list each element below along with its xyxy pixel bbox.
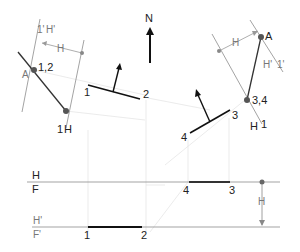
right-fold-bottom-label: H	[250, 120, 258, 132]
top-edge-43-p1: 4	[181, 131, 187, 143]
fold-hfp-lower: F'	[33, 229, 41, 240]
left-point-12-label: 1,2	[38, 61, 53, 73]
front-dim-h-label: H	[258, 196, 265, 207]
top-edge-12-p1: 1	[84, 86, 90, 98]
top-edge-43	[190, 89, 230, 133]
top-edge-12	[88, 63, 140, 99]
top-edge-43-p2: 3	[232, 109, 238, 121]
left-point-a-label: A	[22, 69, 29, 80]
front-edge-12-p1: 1	[84, 229, 90, 241]
fold-hf-upper: H	[32, 169, 40, 181]
left-fold-bottom-label: 1	[57, 123, 63, 135]
right-aux-view	[212, 20, 283, 124]
north-arrow	[146, 27, 154, 63]
descriptive-geometry-diagram: N 1,2 A 1' H' H 1 H A 3,4 H H' 1' H 1 1 …	[0, 0, 300, 252]
right-fold-top-label: H'	[263, 59, 272, 70]
construction-lines	[34, 70, 245, 232]
right-point-a-label: A	[265, 30, 273, 42]
front-edge-12-p2: 2	[141, 229, 147, 241]
front-edge-43-p2: 3	[229, 184, 235, 196]
right-fold-bottom2-label: 1	[261, 118, 267, 130]
top-edge-12-p2: 2	[143, 88, 149, 100]
right-fold-top2-label: 1'	[277, 59, 285, 70]
left-dim-h-label: H	[57, 43, 64, 54]
left-fold-bottom2-label: H	[64, 123, 72, 135]
right-dim-h-label: H	[232, 37, 239, 48]
fold-hfp-upper: H'	[33, 215, 42, 226]
north-label: N	[145, 12, 153, 24]
front-edge-43-p1: 4	[183, 184, 189, 196]
left-fold-top-label: 1'	[37, 24, 45, 35]
right-point-34-label: 3,4	[252, 94, 267, 106]
left-fold-top2-label: H'	[46, 24, 55, 35]
fold-hf-lower: F	[32, 183, 39, 195]
